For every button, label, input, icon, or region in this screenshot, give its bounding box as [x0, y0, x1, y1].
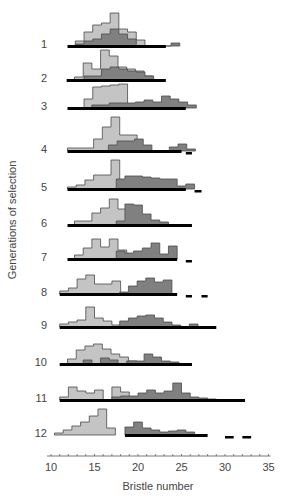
- range-bar: [60, 399, 245, 402]
- generation-row: 7: [41, 239, 192, 263]
- generation-label: 12: [35, 427, 47, 439]
- range-bar: [68, 224, 192, 227]
- x-axis: 101520253035: [45, 454, 275, 473]
- low-line-histogram: [54, 409, 115, 435]
- generation-label: 9: [41, 319, 47, 331]
- generation-label: 2: [41, 72, 47, 84]
- range-bar: [60, 326, 217, 329]
- outlier-mark: [186, 260, 192, 263]
- high-line-histogram: [108, 139, 195, 151]
- generation-row: 4: [41, 117, 196, 155]
- high-line-histogram: [120, 315, 198, 327]
- x-tick-label: 30: [219, 461, 231, 473]
- outlier-mark: [195, 190, 202, 193]
- generation-row: 8: [41, 275, 208, 298]
- high-line-histogram: [112, 383, 216, 400]
- range-bar: [125, 434, 208, 437]
- range-bar: [68, 150, 182, 153]
- low-line-histogram: [68, 160, 120, 189]
- generation-row: 6: [41, 199, 192, 229]
- generation-label: 11: [36, 392, 47, 404]
- generation-row: 1: [41, 13, 180, 50]
- range-bar: [68, 45, 166, 48]
- generation-row: 10: [35, 344, 192, 368]
- high-line-histogram: [116, 176, 194, 189]
- high-line-histogram: [125, 422, 195, 435]
- range-bar: [68, 258, 178, 261]
- generation-label: 6: [41, 217, 47, 229]
- high-line-histogram: [120, 278, 172, 294]
- x-tick-label: 25: [175, 461, 187, 473]
- low-line-histogram: [60, 275, 121, 294]
- generation-label: 5: [41, 181, 47, 193]
- generation-row: 3: [41, 84, 196, 112]
- x-axis-title: Bristle number: [123, 480, 194, 492]
- x-tick-label: 20: [132, 461, 144, 473]
- y-axis-title: Generations of selection: [6, 161, 18, 280]
- generation-label: 10: [35, 356, 47, 368]
- outlier-mark: [186, 152, 192, 155]
- x-tick-label: 35: [262, 461, 274, 473]
- generation-label: 8: [41, 286, 47, 298]
- outlier-mark: [186, 295, 192, 298]
- generation-row: 11: [36, 383, 245, 404]
- x-tick-label: 10: [45, 461, 57, 473]
- bristle-selection-chart: 123456789101112 101520253035 Generations…: [0, 0, 286, 501]
- generation-row: 9: [41, 307, 216, 331]
- range-bar: [68, 107, 186, 110]
- low-line-histogram: [60, 307, 121, 327]
- x-tick-label: 15: [88, 461, 100, 473]
- range-bar: [68, 188, 186, 191]
- generation-row: 12: [35, 409, 251, 439]
- generation-row: 5: [41, 160, 202, 193]
- outlier-mark: [242, 436, 251, 439]
- generation-label: 4: [41, 143, 47, 155]
- generation-row: 2: [41, 50, 166, 84]
- range-bar: [67, 79, 166, 82]
- range-bar: [60, 363, 192, 366]
- generation-label: 3: [41, 100, 47, 112]
- generation-label: 1: [41, 38, 47, 50]
- range-bar: [60, 293, 177, 296]
- generation-label: 7: [41, 251, 47, 263]
- histogram-rows: 123456789101112: [35, 13, 251, 439]
- outlier-mark: [202, 295, 208, 298]
- outlier-mark: [225, 436, 234, 439]
